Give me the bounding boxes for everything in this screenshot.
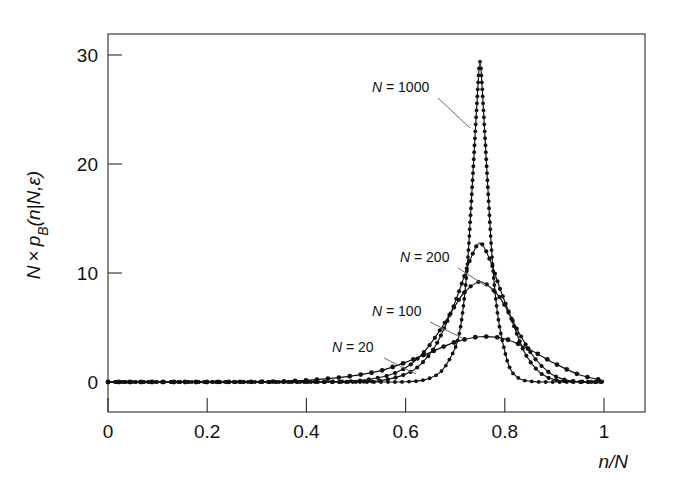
marker-20 [535, 351, 540, 356]
marker-1000 [481, 94, 485, 98]
marker-200 [421, 360, 425, 364]
marker-1000 [492, 283, 496, 287]
marker-1000 [481, 101, 485, 105]
marker-1000 [169, 380, 173, 384]
marker-1000 [468, 220, 472, 224]
marker-1000 [489, 234, 493, 238]
marker-1000 [516, 376, 520, 380]
marker-200 [460, 282, 464, 286]
marker-20 [390, 365, 395, 370]
y-tick-label-0: 0 [87, 372, 98, 393]
marker-200 [506, 309, 510, 313]
marker-1000 [485, 171, 489, 175]
marker-1000 [470, 192, 474, 196]
marker-1000 [469, 206, 473, 210]
marker-20 [401, 361, 406, 366]
marker-1000 [218, 380, 222, 384]
marker-1000 [239, 380, 243, 384]
marker-1000 [434, 373, 438, 377]
marker-1000 [467, 241, 471, 245]
marker-1000 [232, 380, 236, 384]
marker-1000 [337, 380, 341, 384]
marker-100 [469, 284, 473, 288]
y-title-sub: B [35, 226, 51, 235]
curve-1000 [108, 62, 604, 382]
marker-1000 [204, 380, 208, 384]
marker-200 [448, 312, 452, 316]
marker-1000 [372, 380, 376, 384]
marker-1000 [466, 255, 470, 259]
marker-1000 [127, 380, 131, 384]
marker-200 [401, 373, 405, 377]
marker-1000 [106, 380, 110, 384]
marker-1000 [211, 380, 215, 384]
curve-100 [108, 282, 604, 382]
marker-1000 [490, 255, 494, 259]
annotation-n-1000: N = 1000 [372, 79, 470, 128]
y-axis-ticks [108, 55, 122, 382]
marker-1000 [457, 332, 461, 336]
marker-1000 [476, 80, 480, 84]
marker-1000 [473, 143, 477, 147]
marker-200 [547, 376, 551, 380]
marker-200 [445, 319, 449, 323]
marker-1000 [400, 380, 404, 384]
annotation-n-1000-label: N = 1000 [372, 79, 429, 95]
marker-1000 [468, 227, 472, 231]
marker-200 [431, 348, 435, 352]
marker-200 [457, 289, 461, 293]
marker-200 [426, 354, 430, 358]
marker-1000 [330, 380, 334, 384]
binomial-distribution-chart: 0102030 00.20.40.60.81 N×pB(n|N,ε) n/N N… [0, 0, 674, 481]
marker-200 [451, 304, 455, 308]
marker-20 [506, 337, 511, 342]
marker-200 [480, 242, 484, 246]
marker-100 [393, 371, 397, 375]
marker-1000 [490, 248, 494, 252]
marker-1000 [496, 318, 500, 322]
figure-panel: 0102030 00.20.40.60.81 N×pB(n|N,ε) n/N N… [0, 0, 674, 481]
marker-1000 [467, 248, 471, 252]
marker-200 [504, 302, 508, 306]
marker-100 [409, 362, 413, 366]
marker-1000 [288, 380, 292, 384]
marker-1000 [473, 129, 477, 133]
marker-1000 [482, 115, 486, 119]
marker-1000 [544, 380, 548, 384]
marker-100 [539, 364, 543, 368]
marker-1000 [478, 60, 482, 64]
marker-200 [529, 360, 533, 364]
marker-100 [519, 334, 523, 338]
marker-1000 [498, 325, 502, 329]
annotation-n-20-label: N = 20 [332, 339, 374, 355]
marker-100 [433, 336, 437, 340]
annotation-n-100-label: N = 100 [372, 303, 422, 319]
marker-1000 [461, 311, 465, 315]
marker-1000 [484, 150, 488, 154]
marker-1000 [474, 122, 478, 126]
marker-20 [411, 357, 416, 362]
marker-20 [495, 335, 500, 340]
marker-1000 [456, 338, 460, 342]
x-axis-title: n/N [598, 451, 628, 472]
marker-1000 [379, 380, 383, 384]
marker-20 [564, 367, 569, 372]
marker-1000 [479, 66, 483, 70]
marker-1000 [462, 304, 466, 308]
marker-100 [416, 356, 420, 360]
marker-1000 [558, 380, 562, 384]
marker-1000 [530, 380, 534, 384]
marker-1000 [495, 304, 499, 308]
x-tick-label-0.6: 0.6 [392, 421, 418, 442]
marker-1000 [493, 290, 497, 294]
marker-1000 [253, 380, 257, 384]
marker-200 [518, 339, 522, 343]
marker-1000 [197, 380, 201, 384]
marker-200 [534, 367, 538, 371]
marker-1000 [482, 108, 486, 112]
marker-1000 [471, 164, 475, 168]
marker-1000 [393, 380, 397, 384]
marker-1000 [565, 380, 569, 384]
x-tick-label-0.2: 0.2 [194, 421, 220, 442]
marker-1000 [302, 380, 306, 384]
